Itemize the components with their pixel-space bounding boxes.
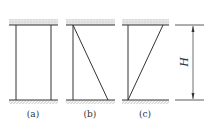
ceiling-support: [122, 19, 169, 25]
diagonal-brace: [128, 25, 163, 100]
frame-diagram: (a) (b) (c) H: [0, 0, 207, 126]
panel-b: (b): [66, 19, 115, 119]
panel-c: (c): [122, 19, 169, 119]
panel-label-a: (a): [27, 109, 39, 119]
arrow-down-icon: [192, 93, 195, 99]
ceiling-support: [9, 19, 58, 25]
dimension-label-h: H: [176, 57, 191, 68]
ground-hatch: [122, 100, 169, 104]
height-dimension: H: [175, 25, 204, 100]
diagonal-brace: [73, 25, 108, 100]
panel-label-b: (b): [84, 109, 97, 119]
panel-label-c: (c): [139, 109, 151, 119]
ground-hatch: [66, 100, 115, 104]
ground-hatch: [9, 100, 58, 104]
arrow-up-icon: [192, 26, 195, 32]
ceiling-support: [66, 19, 115, 25]
panel-a: (a): [9, 19, 58, 119]
